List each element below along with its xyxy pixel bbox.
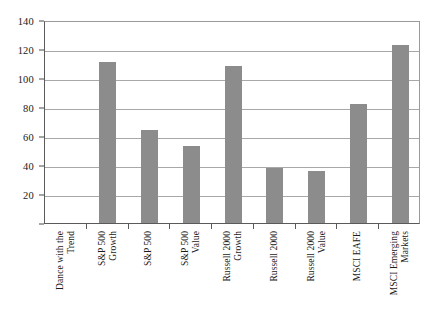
x-axis-category-label: S&P 500Growth bbox=[86, 231, 128, 320]
y-axis-tick-label: 40 bbox=[23, 161, 34, 172]
x-axis-category-label: Russell 2000 bbox=[253, 231, 295, 320]
x-axis-ticks bbox=[44, 224, 420, 230]
x-axis-tick-mark bbox=[253, 224, 254, 229]
x-axis-category-label: Russell 2000Value bbox=[295, 231, 337, 320]
x-axis-category-label-text: S&P 500Growth bbox=[96, 231, 117, 266]
y-axis-tick-label: 140 bbox=[18, 16, 34, 27]
bars-group bbox=[45, 22, 419, 223]
x-axis-category-label: Dance with theTrend bbox=[44, 231, 86, 320]
x-axis-category-label: Russell 2000Growth bbox=[211, 231, 253, 320]
x-axis-category-label-text: Russell 2000 bbox=[269, 231, 280, 282]
x-axis-tick-mark bbox=[86, 224, 87, 229]
x-axis-labels: Dance with theTrendS&P 500GrowthS&P 500S… bbox=[44, 231, 420, 320]
x-axis-category-label: S&P 500Value bbox=[169, 231, 211, 320]
x-axis-category-label-text: Dance with theTrend bbox=[54, 231, 75, 290]
bar bbox=[183, 146, 200, 223]
x-axis-tick-mark bbox=[295, 224, 296, 229]
x-axis-tick-mark bbox=[336, 224, 337, 229]
y-axis-tick-label: 80 bbox=[23, 103, 34, 114]
bar bbox=[99, 62, 116, 223]
x-axis-tick-mark bbox=[378, 224, 379, 229]
x-axis-category-label-text: Russell 2000Value bbox=[305, 231, 326, 282]
x-axis-tick-mark bbox=[211, 224, 212, 229]
y-axis-tick-label: 100 bbox=[18, 74, 34, 85]
x-axis-tick-mark bbox=[128, 224, 129, 229]
x-axis-category-label-text: Russell 2000Growth bbox=[221, 231, 242, 282]
bar bbox=[225, 66, 242, 223]
bar-chart: 20406080100120140 Dance with theTrendS&P… bbox=[0, 0, 427, 320]
bar bbox=[308, 171, 325, 223]
bar bbox=[141, 130, 158, 223]
y-axis-tick-label: 60 bbox=[23, 132, 34, 143]
y-axis-tick-label: 120 bbox=[18, 45, 34, 56]
x-axis-category-label: MSCI EmergingMarkets bbox=[378, 231, 420, 320]
x-axis-category-label-text: MSCI EAFE bbox=[352, 231, 363, 281]
y-axis: 20406080100120140 bbox=[0, 0, 40, 320]
bar bbox=[266, 168, 283, 223]
x-axis-tick-mark bbox=[169, 224, 170, 229]
y-axis-tick-label: 20 bbox=[23, 190, 34, 201]
x-axis-category-label-text: MSCI EmergingMarkets bbox=[389, 231, 410, 295]
x-axis-category-label-text: S&P 500 bbox=[143, 231, 154, 266]
plot-area bbox=[44, 21, 420, 224]
bar bbox=[350, 104, 367, 223]
x-axis-category-label-text: S&P 500Value bbox=[180, 231, 201, 266]
x-axis-category-label: S&P 500 bbox=[128, 231, 170, 320]
bar bbox=[392, 45, 409, 223]
x-axis-category-label: MSCI EAFE bbox=[336, 231, 378, 320]
